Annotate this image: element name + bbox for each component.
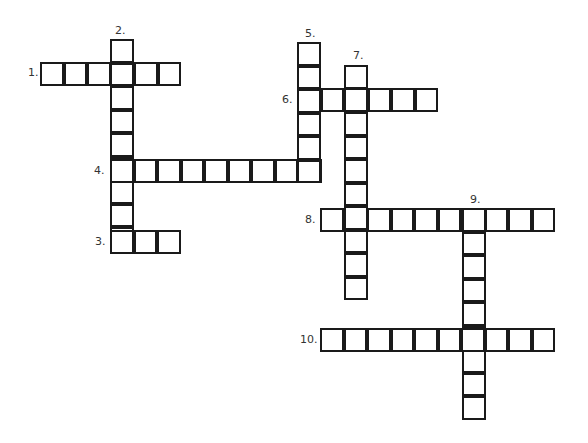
crossword-cell[interactable] — [297, 113, 321, 137]
crossword-cell[interactable] — [462, 396, 486, 420]
clue-number-down: 2. — [115, 25, 126, 37]
clue-number-across: 10. — [300, 334, 318, 346]
crossword-cell[interactable] — [344, 159, 368, 183]
crossword-cell[interactable] — [508, 208, 532, 232]
crossword-cell[interactable] — [181, 159, 205, 183]
crossword-cell[interactable] — [134, 159, 158, 183]
crossword-cell[interactable] — [344, 277, 368, 301]
crossword-cell[interactable] — [438, 208, 462, 232]
crossword-cell[interactable] — [64, 62, 88, 86]
clue-number-across: 6. — [282, 94, 293, 106]
crossword-cell[interactable] — [532, 208, 556, 232]
clue-number-across: 3. — [95, 236, 106, 248]
crossword-cell[interactable] — [157, 159, 181, 183]
crossword-cell[interactable] — [228, 159, 252, 183]
crossword-cell[interactable] — [275, 159, 299, 183]
crossword-cell[interactable] — [414, 208, 438, 232]
crossword-cell[interactable] — [485, 328, 509, 352]
crossword-cell[interactable] — [297, 136, 321, 160]
crossword-cell[interactable] — [344, 206, 368, 230]
crossword-cell[interactable] — [344, 328, 368, 352]
crossword-cell[interactable] — [367, 208, 391, 232]
crossword-cell[interactable] — [251, 159, 275, 183]
crossword-cell[interactable] — [344, 136, 368, 160]
crossword-cell[interactable] — [321, 88, 345, 112]
crossword-cell[interactable] — [414, 328, 438, 352]
crossword-cell[interactable] — [461, 328, 485, 352]
crossword-cell[interactable] — [110, 204, 134, 228]
clue-number-down: 9. — [470, 194, 481, 206]
crossword-cell[interactable] — [344, 65, 368, 89]
crossword-cell[interactable] — [297, 160, 321, 184]
crossword-cell[interactable] — [508, 328, 532, 352]
crossword-cell[interactable] — [297, 89, 321, 113]
crossword-cell[interactable] — [344, 88, 368, 112]
crossword-cell[interactable] — [110, 39, 134, 63]
crossword-cell[interactable] — [40, 62, 64, 86]
crossword-cell[interactable] — [344, 112, 368, 136]
crossword-cell[interactable] — [134, 230, 158, 254]
crossword-cell[interactable] — [391, 328, 415, 352]
crossword-cell[interactable] — [391, 88, 415, 112]
crossword-cell[interactable] — [391, 208, 415, 232]
crossword-cell[interactable] — [110, 133, 134, 157]
crossword-cell[interactable] — [87, 62, 111, 86]
crossword-cell[interactable] — [368, 88, 392, 112]
crossword-cell[interactable] — [462, 302, 486, 326]
crossword-cell[interactable] — [204, 159, 228, 183]
clue-number-down: 7. — [353, 50, 364, 62]
crossword-cell[interactable] — [297, 66, 321, 90]
crossword-cell[interactable] — [110, 230, 134, 254]
crossword-cell[interactable] — [462, 208, 486, 232]
crossword-cell[interactable] — [462, 349, 486, 373]
clue-number-down: 5. — [305, 28, 316, 40]
crossword-cell[interactable] — [462, 255, 486, 279]
crossword-cell[interactable] — [320, 328, 344, 352]
crossword-cell[interactable] — [110, 63, 134, 87]
crossword-cell[interactable] — [462, 279, 486, 303]
crossword-cell[interactable] — [110, 159, 134, 183]
crossword-cell[interactable] — [297, 42, 321, 66]
crossword-cell[interactable] — [485, 208, 509, 232]
crossword-cell[interactable] — [462, 232, 486, 256]
crossword-cell[interactable] — [367, 328, 391, 352]
crossword-cell[interactable] — [110, 180, 134, 204]
crossword-cell[interactable] — [134, 62, 158, 86]
crossword-cell[interactable] — [158, 62, 182, 86]
crossword-cell[interactable] — [462, 373, 486, 397]
clue-number-across: 1. — [28, 67, 39, 79]
crossword-cell[interactable] — [438, 328, 462, 352]
crossword-cell[interactable] — [344, 253, 368, 277]
crossword-cell[interactable] — [320, 208, 344, 232]
crossword-cell[interactable] — [344, 183, 368, 207]
clue-number-across: 8. — [305, 214, 316, 226]
crossword-cell[interactable] — [532, 328, 556, 352]
clue-number-across: 4. — [94, 165, 105, 177]
crossword-cell[interactable] — [157, 230, 181, 254]
crossword-cell[interactable] — [415, 88, 439, 112]
crossword-cell[interactable] — [110, 110, 134, 134]
crossword-cell[interactable] — [110, 86, 134, 110]
crossword-cell[interactable] — [344, 230, 368, 254]
